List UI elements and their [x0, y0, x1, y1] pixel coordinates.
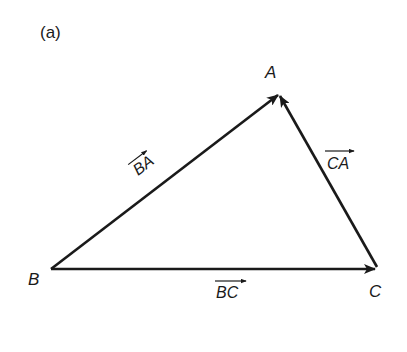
vector-triangle-diagram: (a) A B C BA CA BC — [0, 0, 407, 352]
vertex-label-b: B — [28, 270, 39, 289]
vector-label-bc: BC — [215, 281, 246, 301]
vector-label-ca: CA — [325, 151, 354, 172]
vector-label-bc-text: BC — [216, 284, 239, 301]
vector-label-ba: BA — [128, 151, 157, 179]
vector-label-ba-text: BA — [130, 152, 157, 178]
vector-label-ca-text: CA — [327, 155, 349, 172]
vector-ba-arrow — [51, 95, 278, 269]
vector-ca-arrow — [280, 96, 377, 267]
panel-label: (a) — [40, 23, 61, 42]
vertex-label-c: C — [369, 282, 382, 301]
vertex-label-a: A — [264, 63, 276, 82]
